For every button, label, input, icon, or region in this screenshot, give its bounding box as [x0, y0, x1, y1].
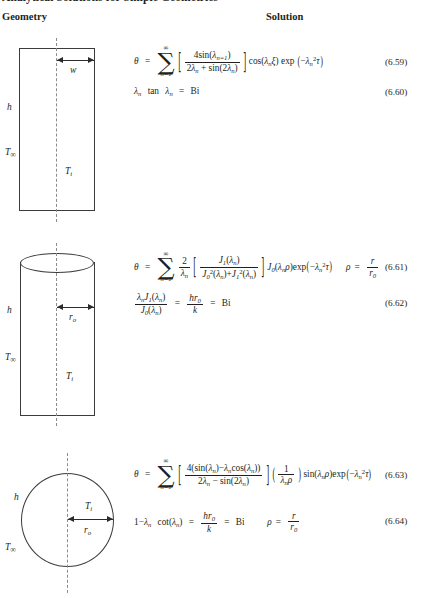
fraction-denominator: 2λn + sin(2λn) [185, 62, 240, 75]
sum-glyph: ∑ [157, 466, 174, 485]
sym-theta: θ [134, 56, 139, 66]
sphere-label-t-infinity: T∞ [5, 543, 16, 554]
sum-lower-limit: n=1 [157, 71, 174, 78]
summation-operator-6-63: ∞ ∑ n=1 [157, 466, 174, 485]
tan-func: tan [148, 86, 159, 96]
right-bracket-6-59: ] [243, 51, 246, 74]
sphere-label-r0: ro [84, 526, 91, 537]
sym-rho-6-61: ρ [346, 262, 350, 272]
summation-operator-6-61: ∞ ∑ n=1 [157, 258, 174, 277]
sphere-center-axis [67, 453, 68, 593]
left-paren-exp: ( [346, 469, 349, 482]
biot-fraction-6-64: hr0 k [201, 511, 217, 534]
equation-number-6-60: (6.60) [385, 87, 407, 97]
slab-label-h: h [7, 103, 12, 113]
cylinder-left-wall [20, 262, 21, 415]
fraction-two-over-lambda: 2 λn [179, 256, 190, 279]
slab-rectangle [19, 48, 95, 211]
bessel-fraction-6-61: J1(λn) J02(λn)+J12(λn) [200, 255, 258, 280]
sphere-label-h: h [14, 493, 19, 503]
cos-func: cos [249, 56, 261, 66]
equation-number-6-61: (6.61) [385, 262, 407, 272]
sym-equals-1: = [145, 56, 150, 66]
right-paren-exp: ) [320, 56, 323, 69]
slab-label-t-infinity: T∞ [5, 148, 16, 159]
cylinder-center-axis [56, 243, 57, 426]
sum-lower-limit: n=1 [157, 484, 174, 491]
equation-6-59: θ = ∞ ∑ n=1 [ 4sin(λn=1) 2λn + sin(2λn) … [134, 50, 323, 74]
sym-rho-6-64: ρ [267, 517, 271, 527]
biot-number-6-64: Bi [236, 517, 245, 527]
sphere-radius-dimension-arrow [68, 516, 113, 523]
equation-number-6-64: (6.64) [385, 516, 407, 526]
left-bracket-6-59: [ [178, 51, 181, 74]
page-title: Analytical Solutions for Simple Geometri… [2, 0, 218, 3]
slab-center-axis [56, 38, 57, 222]
sum-glyph: ∑ [157, 53, 174, 72]
cylinder-label-t-initial: Ti [66, 372, 73, 383]
left-paren-exp: ( [297, 56, 300, 69]
equation-number-6-63: (6.63) [385, 470, 407, 480]
slab-width-dimension-arrow [57, 57, 94, 64]
left-paren-6-63: ( [272, 467, 275, 484]
rho-definition-fraction-6-64: r r0 [288, 511, 299, 534]
equation-6-62: λnJ1(λn) J0(λn) = hr0 k = Bi [134, 292, 231, 316]
sum-upper-limit: ∞ [157, 251, 174, 258]
right-paren-exp: ) [329, 261, 332, 274]
biot-number-6-62: Bi [222, 298, 231, 308]
slab-label-w: w [70, 66, 76, 76]
equation-6-63: θ = ∞ ∑ n=1 [ 4(sin(λn)−λncos(λn)) 2λn −… [134, 463, 372, 487]
right-bracket-6-63: ] [266, 464, 269, 487]
equation-6-61: θ = ∞ ∑ n=1 2 λn [ J1(λn) J02(λn)+J12(λn… [134, 255, 379, 280]
summation-operator-6-59: ∞ ∑ n=1 [157, 53, 174, 72]
equation-6-64: 1−λn cot(λn) = hr0 k = Bi ρ= r r0 [134, 511, 300, 534]
equation-number-6-59: (6.59) [385, 57, 407, 67]
bessel-ratio-fraction-6-62: λnJ1(λn) J0(λn) [135, 292, 167, 316]
cylinder-right-wall [94, 262, 95, 415]
fraction-6-59: 4sin(λn=1) 2λn + sin(2λn) [185, 50, 240, 74]
sphere-label-t-initial: Ti [85, 502, 92, 513]
fraction-numerator: 4sin(λn=1) [185, 50, 240, 62]
exp-func: exp [281, 56, 294, 66]
document-page: Analytical Solutions for Simple Geometri… [0, 0, 436, 598]
rho-definition-fraction-6-61: r r0 [367, 256, 378, 279]
cylinder-label-r0: ro [69, 313, 76, 324]
column-header-solution: Solution [266, 11, 303, 22]
cot-func: cot [158, 517, 169, 527]
right-paren-exp: ) [369, 469, 372, 482]
right-paren-6-63: ) [298, 467, 301, 484]
left-paren-exp: ( [306, 261, 309, 274]
cylinder-label-t-infinity: T∞ [5, 353, 16, 364]
slab-label-t-initial: Ti [65, 167, 72, 178]
sum-lower-limit: n=1 [157, 276, 174, 283]
cylinder-bottom-edge [20, 415, 95, 416]
biot-fraction-6-62: hr0 k [187, 293, 203, 316]
column-header-geometry: Geometry [2, 11, 47, 22]
biot-number-6-60: Bi [191, 86, 200, 96]
sum-glyph: ∑ [157, 258, 174, 277]
cylinder-top-ellipse [20, 253, 94, 273]
cylinder-radius-dimension-arrow [57, 304, 94, 311]
fraction-6-63: 4(sin(λn)−λncos(λn)) 2λn − sin(2λn) [185, 463, 263, 487]
equation-number-6-62: (6.62) [385, 298, 407, 308]
left-bracket-6-63: [ [178, 464, 181, 487]
reciprocal-fraction-6-63: 1 λnρ [278, 464, 294, 487]
right-bracket-6-61: ] [262, 256, 265, 279]
equation-6-60: λn tan λn = Bi [134, 87, 199, 98]
left-bracket-6-61: [ [194, 256, 197, 279]
cylinder-label-h: h [7, 306, 12, 316]
sum-upper-limit: ∞ [157, 45, 174, 52]
sum-upper-limit: ∞ [157, 458, 174, 465]
